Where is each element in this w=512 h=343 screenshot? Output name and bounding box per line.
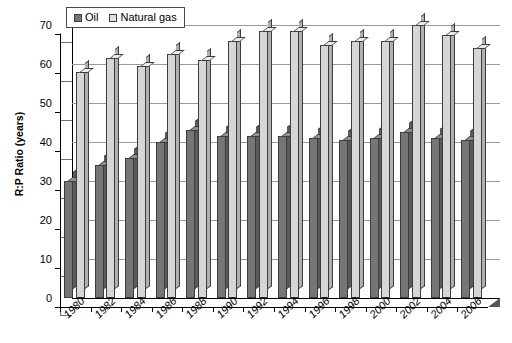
bar-group [309,25,340,307]
bar-front-face [217,136,226,298]
y-axis-tick-labels: 706050403020100 [22,25,52,307]
bar-front-face [400,132,409,298]
bar-front-face [339,140,348,298]
bar-side-face [482,37,486,289]
bar-top-face [170,50,185,55]
bar-natural-gas [351,41,360,298]
bar-top-face [353,37,368,42]
legend-item-oil[interactable]: Oil [74,12,98,23]
bar-natural-gas [473,48,482,298]
bar-side-face [329,33,333,289]
bar-side-face [421,13,425,289]
bar-front-face [125,158,134,298]
bar-natural-gas [259,31,268,298]
bar-oil [431,138,440,298]
bar-natural-gas [228,41,237,298]
legend-swatch-icon [109,14,117,22]
bar-natural-gas [167,54,176,298]
bar-oil [400,132,409,298]
bar-side-face [390,29,394,289]
bar-side-face [237,29,241,289]
bar-front-face [381,41,390,298]
bar-side-face [115,46,119,289]
bar-front-face [137,66,146,298]
bar-front-face [186,130,195,298]
bar-side-face [146,54,150,289]
bar-side-face [451,23,455,289]
bar-top-face [139,62,154,67]
bar-front-face [442,35,451,298]
bar-oil [461,140,470,298]
plot-area [60,25,500,307]
y-tick-label: 10 [24,254,52,265]
bar-group [339,25,370,307]
bar-oil [186,130,195,298]
bar-front-face [370,138,379,298]
bar-top-face [445,31,460,36]
bar-top-face [292,27,307,32]
bar-front-face [106,58,115,298]
bar-side-face [360,29,364,289]
bar-front-face [64,181,73,298]
bar-front-face [228,41,237,298]
y-tick-label: 30 [24,176,52,187]
y-tick-label: 60 [24,59,52,70]
bar-natural-gas [198,60,207,298]
bar-oil [125,158,134,298]
bar-oil [64,181,73,298]
bar-group [156,25,187,307]
bar-oil [370,138,379,298]
y-axis-line [60,34,61,307]
bar-side-face [207,48,211,289]
bar-oil [247,136,256,298]
bar-top-face [261,27,276,32]
bar-side-face [299,19,303,289]
bar-group [125,25,156,307]
bar-oil [95,165,104,298]
bar-front-face [76,72,85,298]
bar-natural-gas [442,35,451,298]
bar-front-face [309,138,318,298]
bar-group [95,25,126,307]
y-tick-label: 40 [24,137,52,148]
bar-natural-gas [320,45,329,299]
legend-item-gas[interactable]: Natural gas [109,12,176,23]
bar-top-face [78,68,93,73]
legend-label: Oil [85,12,98,23]
bar-natural-gas [76,72,85,298]
bar-group [186,25,217,307]
x-axis-tick-labels: 1980198219841986198819901992199419961998… [60,312,512,343]
bar-front-face [412,25,421,298]
bar-natural-gas [137,66,146,298]
bar-top-face [200,56,215,61]
bar-side-face [268,19,272,289]
y-tick-label: 50 [24,98,52,109]
bar-top-face [323,41,338,46]
bar-front-face [473,48,482,298]
bar-front-face [167,54,176,298]
bar-side-face [176,42,180,289]
bar-top-face [109,54,124,59]
bar-front-face [290,31,299,298]
bar-group [247,25,278,307]
chart-legend: OilNatural gas [66,7,185,28]
y-tick-label: 20 [24,215,52,226]
bar-top-face [384,37,399,42]
legend-swatch-icon [74,14,82,22]
y-tick-label: 70 [24,20,52,31]
bar-front-face [247,136,256,298]
bar-front-face [351,41,360,298]
bar-group [64,25,95,307]
floor-right-edge [488,298,500,307]
bar-top-face [414,21,429,26]
bar-group [370,25,401,307]
bar-group [431,25,462,307]
bar-oil [156,142,165,298]
bar-front-face [278,136,287,298]
bar-oil [217,136,226,298]
chart-container: R:P Ratio (years) 706050403020100 198019… [0,0,512,343]
bar-group [400,25,431,307]
legend-label: Natural gas [120,12,176,23]
bar-front-face [156,142,165,298]
bar-oil [339,140,348,298]
